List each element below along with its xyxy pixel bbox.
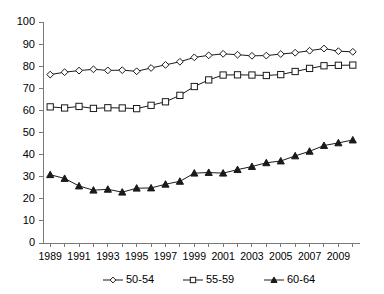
marker-square <box>350 62 356 68</box>
marker-diamond <box>110 277 116 283</box>
marker-square <box>61 105 67 111</box>
marker-diamond <box>47 71 54 78</box>
y-tick-label: 50 <box>23 126 35 138</box>
marker-diamond <box>61 69 68 76</box>
marker-diamond <box>148 65 155 72</box>
chart-legend: 50-5455-5960-64 <box>103 273 315 285</box>
marker-square <box>321 63 327 69</box>
marker-diamond <box>277 51 284 58</box>
y-tick-label: 60 <box>23 104 35 116</box>
marker-triangle <box>75 182 82 188</box>
marker-square <box>134 106 140 112</box>
y-tick-label: 30 <box>23 170 35 182</box>
marker-square <box>335 62 341 68</box>
legend-item-50-54: 50-54 <box>103 273 154 285</box>
y-tick-label: 10 <box>23 214 35 226</box>
marker-triangle <box>306 148 313 154</box>
marker-square <box>47 104 53 110</box>
marker-square <box>206 77 212 83</box>
y-tick-label: 80 <box>23 60 35 72</box>
marker-diamond <box>306 47 313 54</box>
marker-square <box>234 72 240 78</box>
marker-diamond <box>119 67 126 74</box>
marker-diamond <box>133 68 140 75</box>
marker-square <box>220 72 226 78</box>
y-tick-label: 40 <box>23 148 35 160</box>
marker-square <box>119 105 125 111</box>
marker-square <box>105 105 111 111</box>
y-tick-label: 20 <box>23 192 35 204</box>
x-tick-label: 2009 <box>327 250 351 262</box>
marker-square <box>278 71 284 77</box>
y-tick-label: 0 <box>29 236 35 248</box>
series-line-60-64 <box>50 140 353 192</box>
marker-diamond <box>220 50 227 57</box>
marker-diamond <box>176 58 183 65</box>
marker-triangle <box>277 157 284 163</box>
marker-diamond <box>234 51 241 58</box>
marker-diamond <box>321 45 328 52</box>
marker-square <box>190 277 195 282</box>
x-tick-label: 1993 <box>96 250 120 262</box>
marker-diamond <box>263 52 270 59</box>
marker-triangle <box>47 171 54 177</box>
marker-diamond <box>335 48 342 55</box>
marker-square <box>292 68 298 74</box>
marker-square <box>249 72 255 78</box>
marker-square <box>306 65 312 71</box>
x-tick-label: 2007 <box>298 250 322 262</box>
marker-diamond <box>104 67 111 74</box>
marker-square <box>177 92 183 98</box>
y-tick-label: 70 <box>23 82 35 94</box>
marker-diamond <box>292 49 299 56</box>
marker-diamond <box>249 52 256 59</box>
marker-square <box>76 103 82 109</box>
legend-item-60-64: 60-64 <box>264 273 315 285</box>
marker-diamond <box>205 52 212 59</box>
x-tick-label: 1989 <box>39 250 63 262</box>
x-tick-label: 1999 <box>183 250 207 262</box>
marker-diamond <box>349 48 356 55</box>
marker-triangle <box>349 136 356 142</box>
marker-triangle <box>176 178 183 184</box>
marker-square <box>148 102 154 108</box>
x-axis: 1989199119931995199719992001200320052007… <box>39 243 360 262</box>
series-60-64 <box>47 136 357 195</box>
marker-diamond <box>76 67 83 74</box>
x-tick-label: 2005 <box>269 250 293 262</box>
y-axis: 0102030405060708090100 <box>17 15 43 248</box>
series-layer <box>47 45 357 195</box>
y-tick-label: 100 <box>17 15 35 27</box>
marker-diamond <box>162 61 169 68</box>
legend-label: 55-59 <box>206 273 234 285</box>
series-50-54 <box>47 45 356 78</box>
marker-square <box>162 99 168 105</box>
x-tick-label: 2001 <box>211 250 235 262</box>
legend-label: 60-64 <box>287 273 315 285</box>
chart-container: 0102030405060708090100 19891991199319951… <box>0 0 384 294</box>
marker-diamond <box>191 54 198 61</box>
y-tick-label: 90 <box>23 38 35 50</box>
legend-label: 50-54 <box>126 273 154 285</box>
marker-square <box>263 72 269 78</box>
marker-square <box>90 105 96 111</box>
x-tick-label: 1997 <box>154 250 178 262</box>
marker-diamond <box>90 66 97 73</box>
marker-square <box>191 83 197 89</box>
line-chart: 0102030405060708090100 19891991199319951… <box>0 0 384 294</box>
x-tick-label: 1995 <box>125 250 149 262</box>
x-tick-label: 2003 <box>240 250 264 262</box>
legend-item-55-59: 55-59 <box>183 273 234 285</box>
x-tick-label: 1991 <box>67 250 91 262</box>
